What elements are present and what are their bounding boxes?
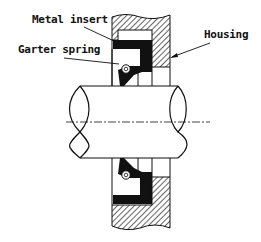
seal-upper [112, 40, 152, 86]
label-metal-insert: Metal insert [32, 13, 108, 26]
label-housing: Housing [204, 28, 248, 41]
label-garter-spring: Garter spring [18, 43, 100, 56]
leader-housing [172, 43, 210, 57]
leader-metal-insert [84, 27, 114, 41]
leader-garter-spring [64, 58, 119, 64]
